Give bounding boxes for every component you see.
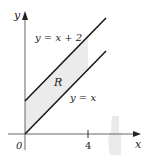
region-label: R: [53, 76, 62, 89]
region-diagram: y x 0 4 y = x + 2 y = x R: [0, 0, 151, 161]
x-axis-label: x: [135, 138, 142, 151]
lower-line-label: y = x: [69, 92, 96, 103]
y-axis-arrow-icon: [22, 11, 28, 20]
origin-label: 0: [16, 140, 23, 151]
x-axis-arrow-icon: [133, 131, 141, 137]
y-axis-label: y: [13, 9, 21, 22]
scan-artifact: [108, 116, 121, 155]
upper-line-label: y = x + 2: [34, 32, 82, 43]
x-tick-label-4: 4: [85, 140, 91, 151]
